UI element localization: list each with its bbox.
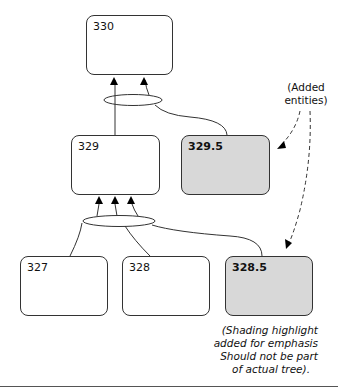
bottom-divider (0, 386, 338, 387)
join-ellipse-bottom (83, 216, 155, 227)
node-label: 330 (93, 20, 114, 33)
added-entities-note: (Added entities) (276, 81, 336, 107)
node-label: 328 (129, 261, 150, 274)
node-label: 329.5 (188, 140, 223, 153)
join-ellipse-top (104, 95, 162, 106)
note-line: (Added (276, 81, 336, 94)
shading-note: (Shading highlight added for emphasis Sh… (210, 324, 318, 376)
node-label: 329 (78, 140, 99, 153)
note-line: added for emphasis (210, 337, 318, 350)
node-330: 330 (86, 15, 173, 75)
note-line: Should not be part (210, 350, 318, 363)
note-line: of actual tree). (210, 363, 310, 376)
node-328-5: 328.5 (225, 256, 313, 316)
node-328: 328 (122, 256, 210, 316)
node-329: 329 (71, 135, 160, 195)
note-line: entities) (276, 94, 336, 107)
node-label: 328.5 (232, 261, 267, 274)
note-line: (Shading highlight (210, 324, 318, 337)
node-327: 327 (20, 256, 108, 316)
node-329-5: 329.5 (181, 135, 270, 195)
node-label: 327 (27, 261, 48, 274)
